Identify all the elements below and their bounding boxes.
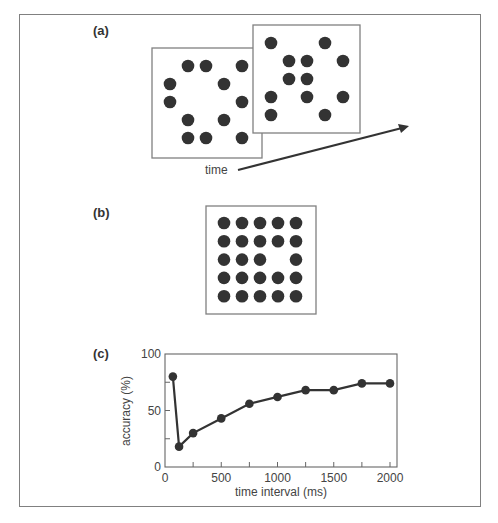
- x-tick-label: 1500: [320, 471, 347, 485]
- accuracy-chart: time interval (ms) accuracy (%) 05001000…: [119, 347, 404, 499]
- dot: [337, 91, 350, 104]
- arrow-head-icon: [398, 124, 409, 133]
- dot: [182, 114, 195, 127]
- plot-area: [165, 354, 397, 467]
- data-point-marker: [358, 379, 367, 388]
- dot: [272, 235, 285, 248]
- dot: [319, 37, 332, 50]
- dot: [236, 60, 249, 73]
- y-tick-label: 100: [141, 347, 161, 361]
- dot: [254, 217, 267, 230]
- dot: [272, 290, 285, 303]
- data-point-marker: [189, 429, 198, 438]
- figure-canvas: time time interval (ms) accuracy (%) 050…: [0, 0, 498, 523]
- dot: [164, 96, 177, 109]
- x-axis-label: time interval (ms): [235, 485, 327, 499]
- dot: [265, 109, 278, 122]
- dot: [265, 91, 278, 104]
- data-point-marker: [217, 414, 226, 423]
- y-tick-label: 50: [148, 404, 162, 418]
- frame-1: [152, 48, 262, 158]
- dot: [254, 290, 267, 303]
- dot: [200, 60, 213, 73]
- dot: [182, 60, 195, 73]
- data-point-marker: [175, 442, 184, 451]
- frame-2: [253, 25, 360, 133]
- dot: [290, 217, 303, 230]
- dot: [218, 253, 231, 266]
- dot: [236, 132, 249, 145]
- dot: [236, 217, 249, 230]
- dot: [236, 235, 249, 248]
- dot: [236, 290, 249, 303]
- data-point-marker: [386, 379, 395, 388]
- x-tick-label: 2000: [377, 471, 404, 485]
- dot: [236, 253, 249, 266]
- dot: [290, 290, 303, 303]
- dot: [236, 272, 249, 285]
- dot: [218, 290, 231, 303]
- dot: [218, 272, 231, 285]
- dot: [265, 37, 278, 50]
- time-label: time: [205, 163, 228, 177]
- dot: [164, 78, 177, 91]
- dot: [301, 91, 314, 104]
- dot: [218, 114, 231, 127]
- dot: [283, 73, 296, 86]
- dot: [272, 217, 285, 230]
- dot: [218, 217, 231, 230]
- dot: [218, 235, 231, 248]
- dot: [319, 109, 332, 122]
- dot: [254, 253, 267, 266]
- data-point-marker: [273, 393, 282, 402]
- dot: [290, 272, 303, 285]
- dot: [290, 253, 303, 266]
- data-point-marker: [301, 386, 310, 395]
- dot: [290, 235, 303, 248]
- panel-a-frames: [152, 25, 360, 158]
- dot: [200, 132, 213, 145]
- data-point-marker: [169, 372, 178, 381]
- dot: [283, 55, 296, 68]
- dot: [254, 272, 267, 285]
- accuracy-line: [173, 377, 390, 447]
- x-tick-label: 500: [211, 471, 231, 485]
- y-axis-label: accuracy (%): [119, 376, 133, 446]
- dot: [272, 272, 285, 285]
- dot: [254, 235, 267, 248]
- x-tick-label: 0: [162, 471, 169, 485]
- dot: [236, 96, 249, 109]
- panel-b-grid: [206, 206, 316, 314]
- dot: [301, 73, 314, 86]
- x-tick-label: 1000: [264, 471, 291, 485]
- data-point-marker: [245, 399, 254, 408]
- dot: [301, 55, 314, 68]
- y-tick-label: 0: [154, 460, 161, 474]
- data-point-marker: [329, 386, 338, 395]
- dot: [182, 132, 195, 145]
- dot: [218, 78, 231, 91]
- dot: [337, 55, 350, 68]
